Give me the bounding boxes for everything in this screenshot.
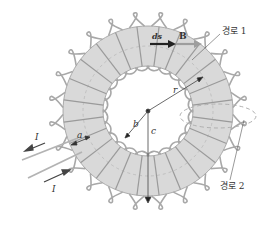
- path1-label: 경로 1: [222, 27, 247, 36]
- ds-label: ds: [152, 32, 162, 40]
- path2-label: 경로 2: [220, 182, 245, 191]
- B-label: B: [179, 32, 187, 41]
- r-label: r: [173, 86, 177, 95]
- a-label: a: [77, 131, 82, 140]
- b-label: b: [133, 120, 139, 129]
- current-out-label: I: [35, 133, 39, 142]
- c-label: c: [151, 127, 156, 136]
- current-in-label: I: [52, 185, 56, 194]
